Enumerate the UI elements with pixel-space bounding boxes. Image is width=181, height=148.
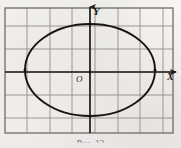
- origin-label: O: [76, 75, 83, 84]
- figure-container: Y X O Рис. 13: [0, 0, 181, 148]
- y-axis-label: Y: [93, 6, 100, 17]
- graph-drawing: [0, 0, 181, 148]
- x-axis-label: X: [167, 72, 174, 82]
- grid-lines: [5, 8, 173, 133]
- grid-border: [5, 8, 173, 133]
- origin-point: [89, 71, 92, 74]
